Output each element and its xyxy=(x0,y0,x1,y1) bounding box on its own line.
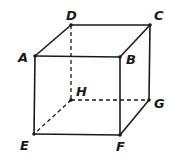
vertex-dot-C xyxy=(148,23,152,27)
edge-AD xyxy=(35,25,71,56)
hidden-edge-HE xyxy=(34,100,71,134)
edge-AE xyxy=(34,56,35,134)
cube-diagram: ABCDEFGH xyxy=(0,0,177,164)
edge-FG xyxy=(120,100,149,135)
vertex-label-G: G xyxy=(154,96,165,111)
vertex-dot-A xyxy=(33,54,37,58)
vertex-dot-H xyxy=(69,98,73,102)
vertex-label-F: F xyxy=(116,139,125,154)
vertex-dot-D xyxy=(69,23,73,27)
vertex-label-D: D xyxy=(66,8,77,23)
vertex-label-E: E xyxy=(20,138,29,153)
edge-AB xyxy=(35,56,120,57)
vertex-dot-F xyxy=(118,133,122,137)
vertex-dot-B xyxy=(118,55,122,59)
vertex-label-H: H xyxy=(76,84,87,99)
edge-CG xyxy=(149,25,150,100)
solid-edges xyxy=(34,25,150,135)
vertex-label-B: B xyxy=(126,52,136,67)
vertex-labels: ABCDEFGH xyxy=(17,8,165,154)
edge-EF xyxy=(34,134,120,135)
vertex-dot-G xyxy=(147,98,151,102)
vertex-label-C: C xyxy=(154,8,164,23)
vertex-label-A: A xyxy=(17,50,28,65)
vertex-dot-E xyxy=(32,132,36,136)
